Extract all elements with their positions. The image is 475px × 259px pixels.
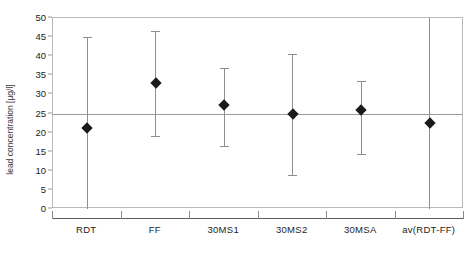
error-bar-line xyxy=(361,81,362,154)
y-tick-label: 30 xyxy=(24,88,46,99)
y-tick-label: 40 xyxy=(24,50,46,61)
data-point-marker[interactable] xyxy=(287,108,298,119)
x-tick-label-ff: FF xyxy=(149,224,161,235)
y-tick-label: 50 xyxy=(24,12,46,23)
x-tick-label-rdt: RDT xyxy=(76,224,96,235)
reference-line xyxy=(53,114,462,115)
x-tick-label-30msa: 30MSA xyxy=(344,224,377,235)
error-bar-cap-top xyxy=(220,68,229,69)
plot-inner xyxy=(53,18,462,207)
y-tick-label: 0 xyxy=(24,203,46,214)
y-tick-label: 25 xyxy=(24,107,46,118)
chart-container: lead concentration [µg/l] 05101520253035… xyxy=(0,0,475,259)
error-bar-cap-top xyxy=(151,31,160,32)
data-point-marker[interactable] xyxy=(82,122,93,133)
error-bar-line xyxy=(429,18,430,209)
x-tick-label-30ms2: 30MS2 xyxy=(276,224,308,235)
x-tick-mark xyxy=(326,211,327,219)
error-bar-cap-bottom xyxy=(357,154,366,155)
error-bar-cap-top xyxy=(288,54,297,55)
x-tick-mark xyxy=(463,211,464,219)
data-point-marker[interactable] xyxy=(424,117,435,128)
y-axis-title: lead concentration [µg/l] xyxy=(0,0,20,259)
y-tick-label: 10 xyxy=(24,164,46,175)
y-tick-label: 5 xyxy=(24,183,46,194)
x-tick-mark xyxy=(189,211,190,219)
x-tick-label-av-rdt-ff: av(RDT-FF) xyxy=(402,224,455,235)
data-point-marker[interactable] xyxy=(219,99,230,110)
x-tick-mark xyxy=(52,211,53,219)
error-bar-cap-bottom xyxy=(220,146,229,147)
x-tick-mark xyxy=(121,211,122,219)
y-tick-label: 35 xyxy=(24,69,46,80)
x-tick-label-30ms1: 30MS1 xyxy=(207,224,239,235)
x-tick-mark xyxy=(258,211,259,219)
y-tick-label: 20 xyxy=(24,126,46,137)
error-bar-cap-bottom xyxy=(288,175,297,176)
y-tick-label: 15 xyxy=(24,145,46,156)
error-bar-cap-top xyxy=(83,37,92,38)
error-bar-cap-top xyxy=(357,81,366,82)
error-bar-cap-bottom xyxy=(151,136,160,137)
plot-area xyxy=(52,17,463,208)
x-tick-mark xyxy=(395,211,396,219)
data-point-marker[interactable] xyxy=(150,77,161,88)
y-axis-tick-labels: 05101520253035404550 xyxy=(24,0,46,259)
y-tick-label: 45 xyxy=(24,31,46,42)
